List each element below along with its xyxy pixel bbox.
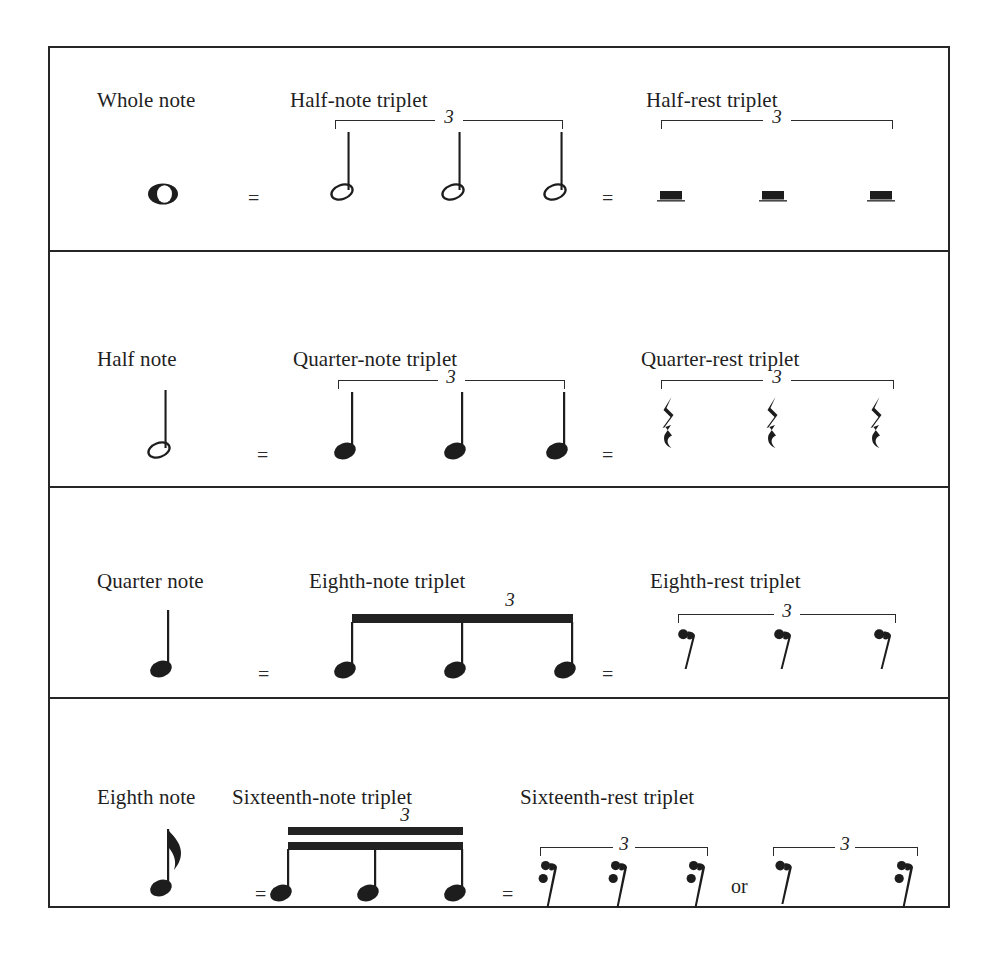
bracket-segment-right	[800, 614, 896, 615]
row-label-right: Half-rest triplet	[646, 90, 778, 111]
sixteenth-note-beamed-glyph	[371, 849, 399, 907]
row-label-middle: Half-note triplet	[290, 90, 428, 111]
triplet-number: 3	[400, 805, 410, 824]
bracket-segment-right	[465, 380, 565, 381]
triplet-bracket-sixteenth-rest-b: 3	[773, 847, 918, 861]
row-whole-note: Whole note Half-note triplet Half-rest t…	[50, 48, 948, 250]
or-label: or	[731, 876, 748, 896]
sixteenth-rest-glyph	[540, 860, 566, 914]
bracket-segment-left	[678, 614, 774, 615]
eighth-rest-glyph	[874, 628, 898, 674]
triplet-number: 3	[782, 601, 792, 620]
quarter-note-glyph	[150, 608, 178, 682]
row-label-right: Eighth-rest triplet	[650, 571, 801, 592]
quarter-rest-glyph	[866, 395, 890, 451]
equals-sign-4b: =	[502, 884, 513, 904]
row-label-middle: Eighth-note triplet	[309, 571, 465, 592]
triplet-number: 3	[446, 367, 456, 386]
bracket-segment-left	[661, 120, 763, 121]
row-eighth-note: Eighth note Sixteenth-note triplet Sixte…	[50, 697, 948, 910]
equals-sign-4a: =	[255, 884, 266, 904]
eighth-rest-glyph	[775, 860, 799, 910]
row-label-middle: Quarter-note triplet	[293, 349, 457, 370]
bracket-segment-left	[335, 120, 435, 121]
bracket-tick-right	[562, 120, 563, 129]
triplet-bracket-half-rest: 3	[661, 120, 893, 134]
half-note-glyph	[442, 130, 470, 206]
triplet-bracket-sixteenth-rest-a: 3	[540, 847, 708, 861]
bracket-tick-left	[335, 120, 336, 129]
bracket-tick-left	[773, 847, 774, 856]
half-note-glyph	[148, 388, 176, 464]
triplet-chart-frame: Whole note Half-note triplet Half-rest t…	[48, 46, 950, 908]
sixteenth-note-beamed-glyph	[284, 849, 312, 907]
equals-sign-1a: =	[248, 188, 259, 208]
row-label-base: Whole note	[97, 90, 195, 111]
triplet-number: 3	[444, 107, 454, 126]
quarter-note-glyph	[334, 390, 362, 464]
eighth-note-beamed-glyph	[458, 622, 486, 684]
triplet-number: 3	[772, 367, 782, 386]
row-label-base: Quarter note	[97, 571, 204, 592]
whole-note-glyph	[146, 182, 180, 206]
triplet-number: 3	[619, 834, 629, 853]
bracket-tick-right	[917, 847, 918, 856]
bracket-segment-left	[338, 380, 438, 381]
quarter-rest-glyph	[762, 395, 786, 451]
bracket-segment-right	[635, 847, 708, 848]
half-note-glyph	[331, 130, 359, 206]
eighth-rest-glyph	[678, 628, 702, 674]
eighth-note-beamed-glyph	[348, 622, 376, 684]
triplet-bracket-eighth-rest: 3	[678, 614, 896, 628]
sixteenth-rest-glyph	[688, 860, 714, 914]
triplet-bracket-quarter-rest: 3	[661, 380, 894, 394]
bracket-tick-left	[678, 614, 679, 623]
triplet-number: 3	[505, 590, 515, 609]
row-label-right: Sixteenth-rest triplet	[520, 787, 694, 808]
half-rest-glyph	[867, 189, 897, 205]
bracket-tick-left	[338, 380, 339, 389]
bracket-tick-right	[564, 380, 565, 389]
bracket-segment-right	[855, 847, 918, 848]
row-label-base: Half note	[97, 349, 177, 370]
bracket-tick-right	[893, 380, 894, 389]
equals-sign-3a: =	[258, 664, 269, 684]
bracket-segment-right	[791, 120, 893, 121]
row-label-middle: Sixteenth-note triplet	[232, 787, 412, 808]
eighth-note-glyph	[150, 827, 184, 905]
row-label-base: Eighth note	[97, 787, 196, 808]
triplet-number: 3	[772, 107, 782, 126]
eighth-note-beamed-glyph	[568, 622, 596, 684]
row-half-note: Half note Quarter-note triplet Quarter-r…	[50, 250, 948, 486]
bracket-segment-left	[540, 847, 613, 848]
half-rest-glyph	[657, 189, 687, 205]
beam-primary	[288, 827, 463, 835]
bracket-segment-right	[791, 380, 894, 381]
eighth-rest-glyph	[774, 628, 798, 674]
equals-sign-2a: =	[257, 445, 268, 465]
bracket-segment-left	[661, 380, 763, 381]
bracket-tick-left	[661, 380, 662, 389]
quarter-rest-glyph	[658, 395, 682, 451]
quarter-note-glyph	[444, 390, 472, 464]
equals-sign-1b: =	[602, 188, 613, 208]
bracket-segment-left	[773, 847, 835, 848]
half-rest-glyph	[759, 189, 789, 205]
sixteenth-note-beamed-glyph	[458, 849, 486, 907]
bracket-tick-right	[895, 614, 896, 623]
bracket-tick-left	[540, 847, 541, 856]
row-quarter-note: Quarter note Eighth-note triplet Eighth-…	[50, 486, 948, 697]
bracket-tick-right	[892, 120, 893, 129]
sixteenth-rest-glyph	[896, 860, 922, 914]
equals-sign-2b: =	[602, 445, 613, 465]
half-note-glyph	[544, 130, 572, 206]
bracket-tick-left	[661, 120, 662, 129]
sixteenth-rest-glyph	[610, 860, 636, 914]
bracket-segment-right	[463, 120, 563, 121]
bracket-tick-right	[707, 847, 708, 856]
quarter-note-glyph	[546, 390, 574, 464]
triplet-number: 3	[840, 834, 850, 853]
equals-sign-3b: =	[602, 664, 613, 684]
